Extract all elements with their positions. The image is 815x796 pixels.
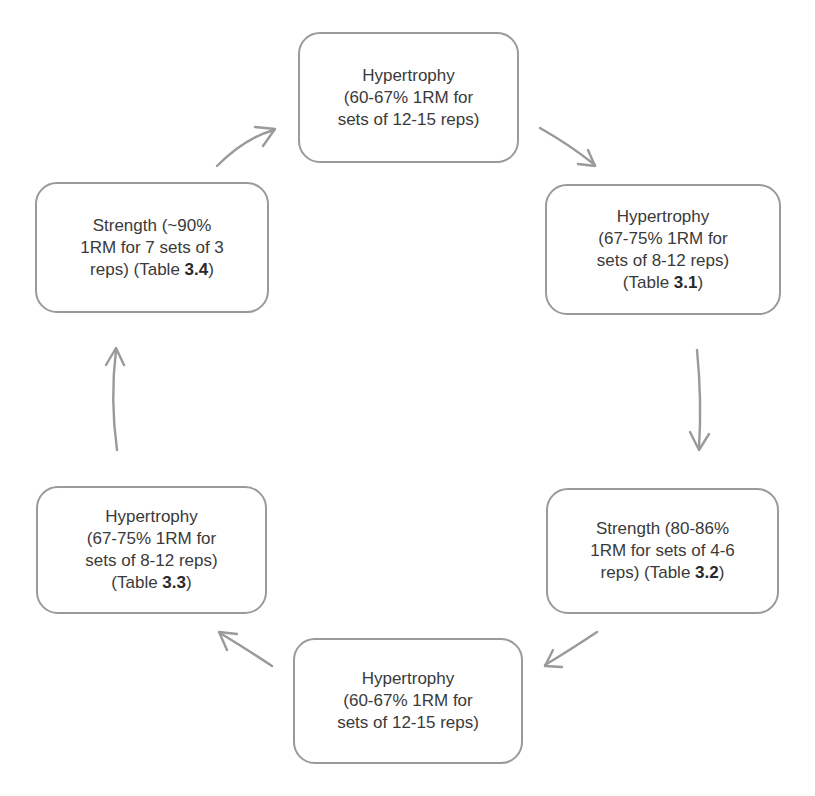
table-suffix: ) bbox=[208, 260, 214, 279]
arrow-bottomright-to-bottom-icon bbox=[545, 632, 597, 667]
table-prefix: reps) (Table bbox=[601, 563, 695, 582]
table-suffix: ) bbox=[186, 573, 192, 592]
node-line: 1RM for sets of 4-6 bbox=[590, 540, 735, 562]
arrow-bottom-to-bottomleft-icon bbox=[219, 632, 272, 666]
node-line: (60-67% 1RM for bbox=[337, 690, 479, 712]
table-reference: reps) (Table 3.4) bbox=[80, 259, 224, 281]
table-reference: reps) (Table 3.2) bbox=[590, 562, 735, 584]
arrow-right-to-bottomright-icon bbox=[690, 350, 709, 450]
table-number: 3.2 bbox=[695, 563, 719, 582]
node-text: Strength (80-86% 1RM for sets of 4-6 rep… bbox=[590, 518, 735, 584]
node-line: Hypertrophy bbox=[338, 65, 480, 87]
table-reference: (Table 3.3) bbox=[85, 572, 217, 594]
arrow-left-to-top-icon bbox=[217, 127, 275, 166]
node-line: Strength (~90% bbox=[80, 215, 224, 237]
node-strength-left: Strength (~90% 1RM for 7 sets of 3 reps)… bbox=[35, 182, 269, 313]
node-text: Strength (~90% 1RM for 7 sets of 3 reps)… bbox=[80, 215, 224, 281]
node-line: sets of 12-15 reps) bbox=[338, 109, 480, 131]
arrow-top-to-right-icon bbox=[540, 128, 595, 166]
table-number: 3.1 bbox=[674, 273, 698, 292]
node-text: Hypertrophy (60-67% 1RM for sets of 12-1… bbox=[337, 668, 479, 734]
node-line: (60-67% 1RM for bbox=[338, 87, 480, 109]
arrow-bottomleft-to-left-icon bbox=[106, 348, 124, 450]
node-text: Hypertrophy (67-75% 1RM for sets of 8-12… bbox=[597, 206, 729, 294]
node-line: sets of 8-12 reps) bbox=[85, 550, 217, 572]
node-line: Hypertrophy bbox=[337, 668, 479, 690]
node-line: (67-75% 1RM for bbox=[85, 528, 217, 550]
node-line: sets of 8-12 reps) bbox=[597, 250, 729, 272]
node-line: Hypertrophy bbox=[597, 206, 729, 228]
node-line: Strength (80-86% bbox=[590, 518, 735, 540]
table-number: 3.4 bbox=[185, 260, 209, 279]
node-hypertrophy-right: Hypertrophy (67-75% 1RM for sets of 8-12… bbox=[545, 184, 781, 315]
node-line: (67-75% 1RM for bbox=[597, 228, 729, 250]
node-text: Hypertrophy (67-75% 1RM for sets of 8-12… bbox=[85, 506, 217, 594]
table-prefix: (Table bbox=[111, 573, 162, 592]
table-suffix: ) bbox=[698, 273, 704, 292]
training-cycle-diagram: Hypertrophy (60-67% 1RM for sets of 12-1… bbox=[0, 0, 815, 796]
node-hypertrophy-bottom-left: Hypertrophy (67-75% 1RM for sets of 8-12… bbox=[36, 486, 267, 614]
node-text: Hypertrophy (60-67% 1RM for sets of 12-1… bbox=[338, 65, 480, 131]
node-strength-bottom-right: Strength (80-86% 1RM for sets of 4-6 rep… bbox=[546, 488, 779, 614]
node-hypertrophy-bottom: Hypertrophy (60-67% 1RM for sets of 12-1… bbox=[293, 638, 523, 764]
node-line: Hypertrophy bbox=[85, 506, 217, 528]
table-suffix: ) bbox=[719, 563, 725, 582]
table-number: 3.3 bbox=[162, 573, 186, 592]
table-reference: (Table 3.1) bbox=[597, 272, 729, 294]
node-line: sets of 12-15 reps) bbox=[337, 712, 479, 734]
table-prefix: reps) (Table bbox=[90, 260, 184, 279]
node-line: 1RM for 7 sets of 3 bbox=[80, 237, 224, 259]
table-prefix: (Table bbox=[623, 273, 674, 292]
node-hypertrophy-top: Hypertrophy (60-67% 1RM for sets of 12-1… bbox=[298, 32, 519, 163]
